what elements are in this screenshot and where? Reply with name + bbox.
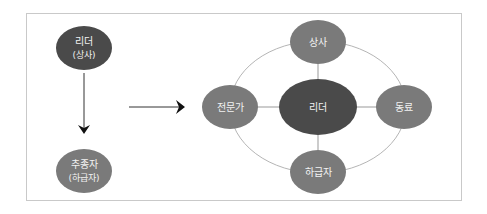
follower-sublabel: (하급자) bbox=[68, 173, 99, 183]
subordinate-label: 하급자 bbox=[305, 166, 332, 178]
leader-superior-label: 리더 bbox=[75, 36, 93, 47]
peer-label: 동료 bbox=[395, 102, 413, 113]
leader-superior-node bbox=[56, 26, 112, 70]
expert-label: 전문가 bbox=[217, 102, 244, 113]
follower-subordinate-node bbox=[56, 149, 112, 193]
superior-label: 상사 bbox=[309, 37, 327, 48]
diagram-canvas: 리더 (상사) 추종자 (하급자) 상사 전문가 동료 하급자 리더 bbox=[0, 0, 487, 214]
hierarchy-model: 리더 (상사) 추종자 (하급자) bbox=[56, 26, 112, 193]
network-model: 상사 전문가 동료 하급자 리더 bbox=[202, 20, 432, 194]
follower-label: 추종자 bbox=[71, 159, 98, 170]
leader-superior-sublabel: (상사) bbox=[72, 50, 95, 60]
right-arrow-icon bbox=[129, 100, 185, 114]
down-arrow-icon bbox=[78, 73, 90, 134]
center-leader-label: 리더 bbox=[309, 102, 327, 113]
